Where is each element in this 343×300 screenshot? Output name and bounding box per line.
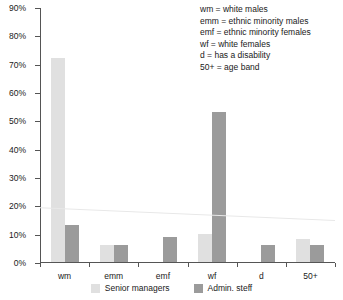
y-axis-label: 40% — [0, 146, 26, 155]
x-axis-tick — [138, 263, 139, 267]
y-axis-label: 20% — [0, 202, 26, 211]
x-axis-label: emf — [156, 272, 170, 281]
y-axis-label: 70% — [0, 61, 26, 70]
legend-swatch-icon — [194, 284, 203, 293]
x-axis-tick — [237, 263, 238, 267]
legend-swatch-icon — [91, 284, 100, 293]
x-axis-tick — [335, 263, 336, 267]
x-axis-label: wm — [58, 272, 71, 281]
plot-area: 0%10%20%30%40%50%60%70%80%90% wmemmemfwf… — [40, 8, 335, 263]
x-axis-tick — [89, 263, 90, 267]
y-axis-label: 0% — [0, 259, 26, 268]
y-axis-label: 80% — [0, 32, 26, 41]
x-axis-tick — [286, 263, 287, 267]
y-axis-label: 60% — [0, 89, 26, 98]
x-axis-label: emm — [104, 272, 123, 281]
legend-item-senior-managers: Senior managers — [91, 284, 170, 293]
y-axis-label: 30% — [0, 174, 26, 183]
x-axis-tick — [40, 263, 41, 267]
legend-label: Senior managers — [105, 284, 170, 293]
legend-item-admin-staff: Admin. steff — [194, 284, 253, 293]
x-axis-label: 50+ — [303, 272, 317, 281]
x-axis-tick — [188, 263, 189, 267]
x-axis-label: d — [259, 272, 264, 281]
y-axis-label: 50% — [0, 117, 26, 126]
trend-line — [40, 8, 335, 263]
x-axis-label: wf — [208, 272, 217, 281]
legend-label: Admin. steff — [208, 284, 253, 293]
chart-legend: Senior managers Admin. steff — [0, 284, 343, 293]
y-axis-label: 90% — [0, 4, 26, 13]
bar-chart: wm = white malesemm = ethnic minority ma… — [0, 0, 343, 300]
y-axis-label: 10% — [0, 231, 26, 240]
